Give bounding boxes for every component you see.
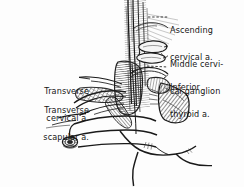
label-line-2: scapular a. [43,133,89,142]
label-line-1: Transverse [43,106,89,115]
label-transverse-scapular-artery: Transverse scapular a. [43,87,89,161]
label-inferior-thyroid-artery: Inferior thyroid a. [170,64,210,138]
label-line-2: thyroid a. [170,110,210,119]
label-line-1: Inferior [170,83,210,92]
label-line-1: Ascending [170,26,213,35]
anatomical-figure: Ascending cervical a. Middle cervi- cal … [0,0,244,187]
